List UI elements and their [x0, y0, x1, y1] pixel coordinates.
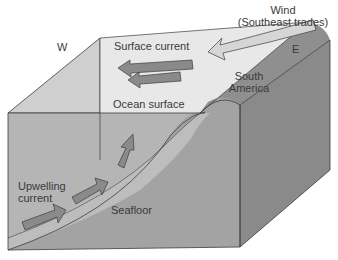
- south-america-label: South America: [219, 70, 279, 94]
- surface-current-label: Surface current: [114, 40, 189, 52]
- wind-label-line1: Wind: [228, 4, 338, 16]
- upwelling-diagram: [0, 0, 338, 260]
- upwelling-line2: current: [18, 192, 66, 204]
- south-america-line2: America: [219, 82, 279, 94]
- wind-label-line2: (Southeast trades): [228, 16, 338, 28]
- south-america-line1: South: [219, 70, 279, 82]
- seafloor-label: Seafloor: [111, 204, 152, 216]
- ocean-surface-label: Ocean surface: [113, 98, 185, 110]
- ocean-west-face: [8, 38, 100, 113]
- west-label: W: [57, 41, 67, 53]
- east-label: E: [292, 43, 299, 55]
- upwelling-current-label: Upwelling current: [18, 180, 66, 204]
- upwelling-line1: Upwelling: [18, 180, 66, 192]
- wind-label: Wind (Southeast trades): [228, 4, 338, 28]
